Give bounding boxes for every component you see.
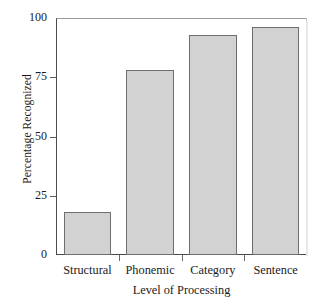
bar-phonemic: [126, 70, 174, 255]
y-tick-label-0: 0: [7, 248, 47, 260]
bar-sentence: [252, 27, 300, 255]
x-tick-mark-2: [182, 255, 183, 261]
y-tick-label-50: 50: [7, 130, 47, 142]
y-tick-label-100: 100: [7, 11, 47, 23]
x-tick-mark-3: [244, 255, 245, 261]
x-axis-title: Level of Processing: [56, 283, 307, 298]
y-tick-label-25: 25: [7, 189, 47, 201]
bar-chart-figure: Percentage Recognized 100 75 50 25 0 Str…: [0, 0, 319, 305]
y-tick-label-75: 75: [7, 70, 47, 82]
x-tick-label-sentence: Sentence: [233, 262, 319, 278]
bar-structural: [64, 212, 112, 255]
x-tick-mark-1: [119, 255, 120, 261]
bar-category: [189, 35, 237, 255]
